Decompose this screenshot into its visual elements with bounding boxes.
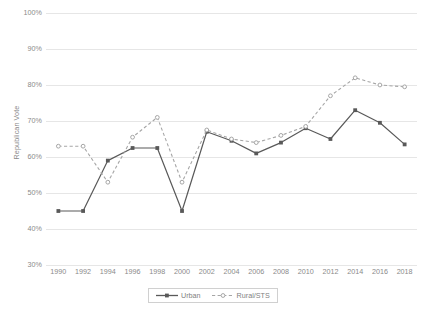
data-point-marker: [230, 137, 234, 141]
x-axis-tick-label: 2018: [388, 268, 422, 275]
line-chart: Republican Vote 30%40%50%60%70%80%90%100…: [0, 0, 423, 314]
data-point-marker: [329, 137, 333, 141]
data-point-marker: [56, 209, 60, 213]
plot-area: [46, 13, 417, 265]
legend-item-rural-sts[interactable]: Rural/STS: [212, 291, 270, 300]
data-point-marker: [378, 83, 382, 87]
series-line: [58, 78, 404, 182]
data-point-marker: [155, 116, 159, 120]
legend-swatch-icon: [156, 291, 178, 300]
series-rural-sts: [56, 76, 406, 184]
y-axis-tick-label: 60%: [14, 153, 42, 160]
series-urban: [56, 108, 406, 213]
data-point-marker: [329, 94, 333, 98]
data-point-marker: [254, 152, 258, 156]
legend-item-label: Urban: [181, 291, 201, 300]
legend-item-label: Rural/STS: [237, 291, 270, 300]
legend-item-urban[interactable]: Urban: [156, 291, 201, 300]
series-layer: [46, 13, 417, 265]
y-axis-tick-label: 90%: [14, 45, 42, 52]
series-line: [58, 110, 404, 211]
data-point-marker: [403, 85, 407, 89]
y-axis-tick-label: 40%: [14, 225, 42, 232]
data-point-marker: [56, 144, 60, 148]
y-axis-tick-label: 100%: [14, 9, 42, 16]
data-point-marker: [304, 125, 308, 129]
data-point-marker: [180, 180, 184, 184]
data-point-marker: [131, 135, 135, 139]
data-point-marker: [353, 108, 357, 112]
data-point-marker: [378, 121, 382, 125]
data-point-marker: [106, 180, 110, 184]
chart-legend: UrbanRural/STS: [148, 288, 278, 303]
gridline: [46, 265, 417, 266]
data-point-marker: [403, 143, 407, 147]
data-point-marker: [279, 141, 283, 145]
y-axis-tick-label: 80%: [14, 81, 42, 88]
data-point-marker: [131, 146, 135, 150]
data-point-marker: [279, 134, 283, 138]
data-point-marker: [254, 141, 258, 145]
data-point-marker: [106, 159, 110, 163]
data-point-marker: [180, 209, 184, 213]
y-axis-tick-label: 50%: [14, 189, 42, 196]
data-point-marker: [155, 146, 159, 150]
y-axis-tick-label: 30%: [14, 261, 42, 268]
y-axis-tick-label: 70%: [14, 117, 42, 124]
data-point-marker: [205, 128, 209, 132]
data-point-marker: [81, 144, 85, 148]
data-point-marker: [353, 76, 357, 80]
y-axis-title: Republican Vote: [12, 83, 21, 183]
data-point-marker: [81, 209, 85, 213]
legend-swatch-icon: [212, 291, 234, 300]
